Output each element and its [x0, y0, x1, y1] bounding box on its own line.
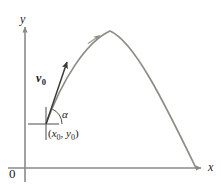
- point-x-symbol: x: [52, 127, 57, 139]
- y-axis-label: y: [20, 13, 25, 25]
- angle-arc: [52, 109, 62, 124]
- velocity-subscript: 0: [42, 77, 46, 87]
- point-x-subscript: 0: [57, 133, 61, 142]
- trajectory-curve: [46, 31, 196, 168]
- velocity-symbol: v: [36, 71, 41, 85]
- figure-canvas: [0, 0, 222, 190]
- origin-label: 0: [9, 167, 16, 180]
- launch-point-label: (x0, y0): [48, 128, 79, 139]
- projectile-motion-figure: y x 0 v0 α (x0, y0): [0, 0, 222, 190]
- paren-close: ): [75, 127, 79, 139]
- point-y-subscript: 0: [71, 133, 75, 142]
- velocity-vector-label: v0: [36, 72, 46, 84]
- launch-angle-label: α: [62, 109, 68, 120]
- x-axis-label: x: [208, 161, 213, 173]
